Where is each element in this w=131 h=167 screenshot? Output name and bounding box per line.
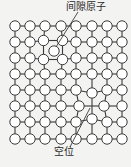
lattice-atom (71, 53, 81, 63)
lattice-atom (117, 117, 127, 127)
lattice-atom (10, 101, 20, 111)
lattice-atom (71, 85, 81, 95)
lattice-atom (10, 85, 20, 95)
lattice-atom (10, 69, 20, 79)
lattice-atom (10, 37, 20, 47)
lattice-atom (25, 134, 35, 144)
lattice-atom (87, 69, 97, 79)
lattice-atom (56, 69, 66, 79)
lattice-atom (102, 134, 112, 144)
lattice-atom (25, 85, 35, 95)
lattice-atom (102, 53, 112, 63)
lattice-atom (38, 35, 48, 45)
lattice-atom (56, 134, 66, 144)
lattice-atom (40, 69, 50, 79)
lattice-atom (40, 134, 50, 144)
vacancy-label: 空位 (54, 147, 74, 157)
lattice-atom (102, 117, 112, 127)
lattice-atom (117, 69, 127, 79)
lattice-atom (117, 21, 127, 31)
lattice-atom (102, 85, 112, 95)
lattice-atom (25, 21, 35, 31)
interstitial-atom-label: 间隙原子 (66, 2, 106, 12)
lattice-atom (40, 101, 50, 111)
lattice-atom (102, 21, 112, 31)
lattice-atom (87, 21, 97, 31)
lattice-atoms (10, 21, 127, 144)
lattice-atom (56, 85, 66, 95)
lattice-atom (10, 21, 20, 31)
lattice-atom (38, 54, 48, 64)
lattice-atom (117, 101, 127, 111)
lattice-atom (10, 134, 20, 144)
lattice-atom (40, 21, 50, 31)
lattice-atom (56, 117, 66, 127)
lattice-atom (10, 53, 20, 63)
lattice-atom (10, 117, 20, 127)
lattice-atom (117, 134, 127, 144)
lattice-atom (40, 85, 50, 95)
lattice-atom (99, 101, 109, 111)
crystal-lattice-diagram (0, 0, 131, 167)
lattice-atom (87, 37, 97, 47)
lattice-atom (102, 69, 112, 79)
lattice-atom (87, 114, 97, 124)
lattice-atom (87, 88, 97, 98)
lattice-atom (25, 37, 35, 47)
lattice-atom (117, 85, 127, 95)
lattice-atom (71, 21, 81, 31)
lattice-atom (71, 37, 81, 47)
lattice-atom (87, 134, 97, 144)
lattice-atom (25, 69, 35, 79)
lattice-atom (117, 53, 127, 63)
lattice-atom (74, 101, 84, 111)
lattice-atom (25, 117, 35, 127)
lattice-atom (87, 53, 97, 63)
lattice-atom (25, 101, 35, 111)
lattice-atom (56, 21, 66, 31)
lattice-atom (57, 54, 67, 64)
interstitial-atom (49, 46, 59, 56)
lattice-atom (56, 101, 66, 111)
lattice-atom (71, 69, 81, 79)
lattice-atom (71, 117, 81, 127)
lattice-atom (25, 53, 35, 63)
lattice-atom (40, 117, 50, 127)
lattice-atom (102, 37, 112, 47)
lattice-atom (117, 37, 127, 47)
